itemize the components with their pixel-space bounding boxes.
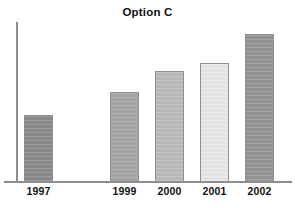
x-axis-label-1999: 1999 xyxy=(100,185,149,197)
x-axis-label-1997: 1997 xyxy=(14,185,63,197)
x-axis-label-2000: 2000 xyxy=(145,185,194,197)
x-axis-label-2001: 2001 xyxy=(190,185,239,197)
bar-2001 xyxy=(200,63,229,182)
bar-2000 xyxy=(155,71,184,182)
bar-chart: Option C 19971999200020012002 xyxy=(0,0,295,208)
bars-layer: 19971999200020012002 xyxy=(0,0,295,208)
x-axis-label-2002: 2002 xyxy=(235,185,284,197)
bar-1999 xyxy=(110,92,139,182)
bar-2002 xyxy=(245,34,274,182)
bar-1997 xyxy=(24,115,53,182)
